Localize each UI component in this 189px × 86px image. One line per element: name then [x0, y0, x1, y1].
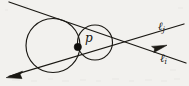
label-line-ell-i: ℓi: [160, 53, 167, 65]
large-circle: [26, 19, 80, 73]
geometry-figure: p ℓj ℓi: [0, 0, 189, 86]
label-point-p: p: [85, 32, 93, 44]
figure-canvas: [0, 0, 189, 86]
label-ell-j-subscript: j: [163, 25, 165, 34]
point-p-dot: [74, 43, 81, 50]
label-ell-i-subscript: i: [165, 57, 167, 66]
small-circle: [78, 25, 113, 60]
arrowhead-lower-left: [6, 71, 22, 78]
label-line-ell-j: ℓj: [158, 21, 165, 33]
